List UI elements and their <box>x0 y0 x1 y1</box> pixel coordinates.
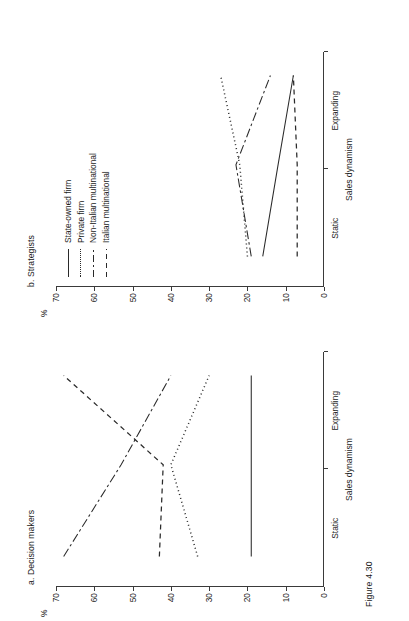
panel-b-title: b. Strategists <box>26 235 36 287</box>
y-tick <box>209 287 210 291</box>
y-tick-label: 50 <box>128 593 136 602</box>
series-line-dotted <box>171 376 209 557</box>
y-tick <box>324 287 325 291</box>
y-tick-label: 30 <box>205 293 213 302</box>
y-axis-unit-b: % <box>39 310 49 317</box>
y-tick <box>247 287 248 291</box>
x-tick <box>324 469 328 470</box>
series-line-solid <box>263 76 294 257</box>
series-line-dotted <box>221 76 248 257</box>
y-axis-unit-a: % <box>39 610 49 617</box>
x-tick-label: Expanding <box>330 391 340 431</box>
plot-area-a: % 010203040506070 StaticExpanding Sales … <box>56 352 324 587</box>
x-tick <box>324 169 328 170</box>
y-tick-label: 20 <box>243 293 251 302</box>
series-lines-a <box>56 352 324 587</box>
series-line-dashdot <box>236 76 270 257</box>
y-tick-label: 0 <box>320 593 328 598</box>
x-tick <box>324 351 328 352</box>
y-tick <box>94 587 95 591</box>
y-tick <box>94 287 95 291</box>
y-tick <box>286 587 287 591</box>
x-axis-title-b: Sales dynamism <box>344 138 354 201</box>
y-tick-label: 0 <box>320 293 328 298</box>
y-tick-label: 50 <box>128 293 136 302</box>
panel-decision-makers: a. Decision makers % 010203040506070 Sta… <box>0 321 409 621</box>
y-tick <box>324 587 325 591</box>
y-tick-label: 20 <box>243 593 251 602</box>
x-tick-label: Static <box>330 518 340 539</box>
y-tick-label: 70 <box>52 593 60 602</box>
y-tick <box>56 587 57 591</box>
x-tick-label: Expanding <box>330 91 340 131</box>
rotated-figure-canvas: a. Decision makers % 010203040506070 Sta… <box>0 0 409 621</box>
series-line-dashdot <box>64 376 171 557</box>
plot-area-b: % 010203040506070 StaticExpanding Sales … <box>56 52 324 287</box>
y-tick <box>133 287 134 291</box>
y-tick-label: 40 <box>167 293 175 302</box>
y-tick-label: 10 <box>282 293 290 302</box>
y-tick-label: 70 <box>52 293 60 302</box>
x-tick-label: Static <box>330 218 340 239</box>
y-tick-label: 60 <box>90 593 98 602</box>
panel-a-title: a. Decision makers <box>26 510 36 585</box>
panel-strategists: b. Strategists State-owned firmPrivate f… <box>0 0 409 321</box>
x-axis-title-a: Sales dynamism <box>344 438 354 501</box>
figure-caption: Figure 4.30 <box>364 561 374 607</box>
y-tick-label: 10 <box>282 593 290 602</box>
y-tick <box>209 587 210 591</box>
y-tick-label: 40 <box>167 593 175 602</box>
series-lines-b <box>56 52 324 287</box>
y-tick-label: 60 <box>90 293 98 302</box>
y-tick <box>286 287 287 291</box>
series-line-dashed <box>64 376 164 557</box>
y-tick <box>133 587 134 591</box>
x-tick <box>324 51 328 52</box>
y-tick-label: 30 <box>205 593 213 602</box>
y-tick <box>56 287 57 291</box>
series-line-dashed <box>293 76 297 257</box>
y-tick <box>171 287 172 291</box>
y-tick <box>247 587 248 591</box>
y-tick <box>171 587 172 591</box>
figure-page: a. Decision makers % 010203040506070 Sta… <box>0 0 409 621</box>
